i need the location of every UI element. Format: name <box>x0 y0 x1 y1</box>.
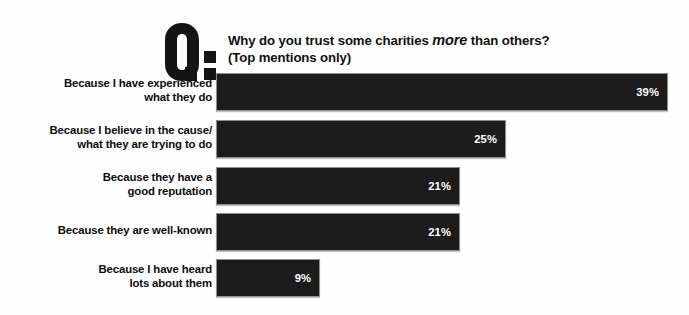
chart-row: Because they have a good reputation 21% <box>0 167 689 205</box>
category-label-line-1: Because I believe in the cause/ <box>50 124 213 136</box>
category-label: Because I have experienced what they do <box>0 77 212 104</box>
category-label-line-2: good reputation <box>0 185 212 199</box>
category-label-line-1: Because they are well-known <box>58 224 212 236</box>
category-label-line-1: Because I have heard <box>99 263 213 275</box>
category-label: Because they have a good reputation <box>0 171 212 198</box>
category-label: Because I believe in the cause/ what the… <box>0 124 212 151</box>
bar-value-label: 25% <box>474 133 497 145</box>
bar-value-label: 21% <box>428 226 451 238</box>
bar-chart-plot-area: Because I have experienced what they do … <box>0 0 689 315</box>
category-label-line-1: Because I have experienced <box>64 77 212 89</box>
chart-container: Why do you trust some charities more tha… <box>0 0 689 315</box>
category-label-line-2: what they are trying to do <box>0 138 212 152</box>
bar-value-label: 9% <box>295 272 311 284</box>
bar-segment: 21% <box>216 167 460 205</box>
bar-segment: 39% <box>216 73 668 111</box>
category-label-line-1: Because they have a <box>103 171 212 183</box>
category-label-line-2: lots about them <box>0 277 212 291</box>
bar-segment: 25% <box>216 120 506 158</box>
chart-row: Because I believe in the cause/ what the… <box>0 120 689 158</box>
bar-value-label: 39% <box>636 86 659 98</box>
bar-segment: 21% <box>216 213 460 251</box>
bar-value-label: 21% <box>428 180 451 192</box>
category-label: Because they are well-known <box>0 224 212 238</box>
bar-segment: 9% <box>216 259 320 297</box>
category-label-line-2: what they do <box>0 91 212 105</box>
category-label: Because I have heard lots about them <box>0 263 212 290</box>
chart-row: Because I have heard lots about them 9% <box>0 259 689 297</box>
chart-row: Because they are well-known 21% <box>0 213 689 251</box>
chart-row: Because I have experienced what they do … <box>0 73 689 111</box>
